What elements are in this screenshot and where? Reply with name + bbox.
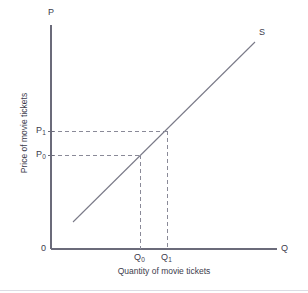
x-axis-caption: Quantity of movie tickets <box>51 266 277 276</box>
price-tick-label-p0: P0 <box>36 150 46 159</box>
price-tick-label-p1: P1 <box>36 126 46 135</box>
quantity-tick-q1-base: Q <box>161 252 168 262</box>
supply-curve-figure: P Q S 0 P1 P0 Q0 Q1 Price of movie ticke… <box>0 0 308 293</box>
bottom-rule <box>0 290 308 291</box>
origin-label: 0 <box>41 244 46 253</box>
quantity-tick-label-q0: Q0 <box>134 253 145 262</box>
quantity-tick-q1-subscript: 1 <box>168 256 172 263</box>
price-tick-p1-subscript: 1 <box>42 129 46 136</box>
plot-canvas <box>0 0 308 293</box>
price-axis-symbol: P <box>48 8 54 17</box>
quantity-tick-q0-subscript: 0 <box>141 256 145 263</box>
supply-curve-line <box>73 42 255 222</box>
price-tick-p0-subscript: 0 <box>42 153 46 160</box>
quantity-tick-label-q1: Q1 <box>161 253 172 262</box>
y-axis-caption: Price of movie tickets <box>19 73 29 193</box>
quantity-axis-symbol: Q <box>281 244 288 253</box>
quantity-tick-q0-base: Q <box>134 252 141 262</box>
supply-curve-label: S <box>259 28 265 37</box>
